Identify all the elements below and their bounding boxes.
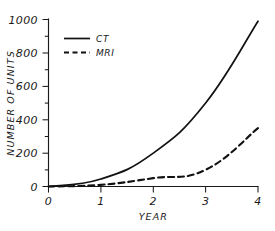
- series-line-mri: [49, 128, 259, 186]
- chart-container: 1000 800 600 400 200 0 0 1 2 3 4 YEAR NU…: [0, 0, 275, 231]
- x-tick-label-0: 0: [45, 195, 52, 208]
- x-tick-label-4: 4: [254, 195, 261, 208]
- y-tick-label-800: 800: [16, 47, 38, 60]
- y-tick-label-1000: 1000: [8, 14, 38, 27]
- y-axis-title: NUMBER OF UNITS: [5, 50, 16, 156]
- x-tick-label-1: 1: [97, 195, 104, 208]
- x-tick-label-2: 2: [150, 195, 157, 208]
- line-chart: 1000 800 600 400 200 0 0 1 2 3 4 YEAR NU…: [0, 0, 275, 231]
- x-tick-label-3: 3: [202, 195, 209, 208]
- x-axis-ticks: [49, 187, 259, 193]
- chart-legend: CT MRI: [64, 34, 114, 58]
- y-tick-label-600: 600: [16, 80, 38, 93]
- y-tick-label-400: 400: [16, 114, 38, 127]
- y-tick-label-0: 0: [31, 181, 38, 194]
- legend-label-mri: MRI: [96, 48, 114, 58]
- legend-label-ct: CT: [96, 34, 110, 44]
- x-axis-title: YEAR: [139, 211, 168, 222]
- y-tick-label-200: 200: [16, 147, 38, 160]
- series-line-ct: [49, 21, 259, 186]
